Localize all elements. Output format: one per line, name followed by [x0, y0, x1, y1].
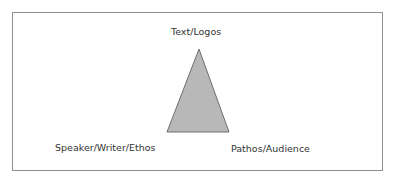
- vertex-label-ethos: Speaker/Writer/Ethos: [55, 142, 156, 153]
- vertex-label-logos: Text/Logos: [171, 26, 221, 37]
- vertex-label-pathos: Pathos/Audience: [231, 143, 310, 154]
